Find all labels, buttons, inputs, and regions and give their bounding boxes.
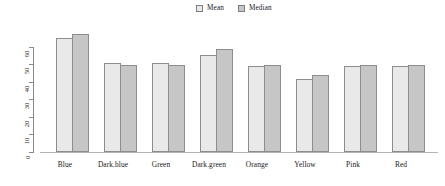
bar-median-pink	[360, 65, 377, 153]
bar-mean-orange	[248, 66, 265, 152]
y-tick-label-40: 40	[24, 86, 31, 93]
x-label-dark-green: Dark.green	[184, 160, 234, 169]
bar-mean-blue	[56, 38, 73, 152]
y-tick-10	[29, 134, 33, 135]
y-tick-label-10: 10	[24, 138, 31, 145]
bar-mean-pink	[344, 66, 361, 152]
x-label-dark-blue: Dark.blue	[88, 160, 138, 169]
y-tick-60	[29, 47, 33, 48]
x-label-pink: Pink	[328, 160, 378, 169]
bar-mean-yellow	[296, 79, 313, 153]
y-tick-label-30: 30	[24, 103, 31, 110]
y-tick-50	[29, 64, 33, 65]
y-tick-30	[29, 99, 33, 100]
bar-median-green	[168, 65, 185, 153]
x-label-red: Red	[376, 160, 426, 169]
x-label-blue: Blue	[40, 160, 90, 169]
y-axis-line	[33, 47, 34, 153]
bar-chart: Mean Median 0 10 20 30 40	[0, 0, 445, 186]
bar-median-dark-green	[216, 49, 233, 152]
y-tick-label-60: 60	[24, 51, 31, 58]
x-label-yellow: Yellow	[280, 160, 330, 169]
bar-mean-green	[152, 63, 169, 152]
x-axis-baseline	[40, 152, 438, 153]
y-tick-0	[29, 152, 33, 153]
x-label-green: Green	[136, 160, 186, 169]
y-tick-40	[29, 82, 33, 83]
bar-mean-dark-green	[200, 55, 217, 152]
bar-mean-dark-blue	[104, 63, 121, 152]
bar-median-orange	[264, 65, 281, 153]
bar-median-blue	[72, 34, 89, 152]
bar-mean-red	[392, 66, 409, 152]
y-tick-label-20: 20	[24, 121, 31, 128]
y-tick-label-0: 0	[24, 156, 31, 159]
bar-median-yellow	[312, 75, 329, 152]
x-label-orange: Orange	[232, 160, 282, 169]
y-tick-20	[29, 117, 33, 118]
bar-median-red	[408, 65, 425, 153]
y-tick-label-50: 50	[24, 68, 31, 75]
plot-area: 0 10 20 30 40 50 60	[0, 0, 445, 186]
bar-median-dark-blue	[120, 65, 137, 153]
